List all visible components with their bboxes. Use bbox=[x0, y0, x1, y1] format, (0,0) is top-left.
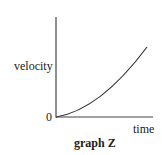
velocity-curve bbox=[56, 47, 147, 117]
x-axis-label: time bbox=[133, 123, 154, 135]
graph-title: graph Z bbox=[74, 137, 116, 149]
origin-label: 0 bbox=[46, 111, 52, 123]
y-axis-label: velocity bbox=[14, 60, 53, 72]
